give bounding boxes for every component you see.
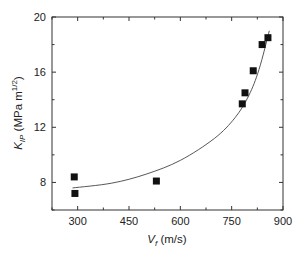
- data-point-marker: [239, 100, 246, 107]
- data-point-marker: [71, 173, 78, 180]
- fit-curve: [73, 31, 270, 188]
- data-point-marker: [250, 67, 257, 74]
- x-tick-label: 600: [171, 215, 189, 227]
- x-tick-label: 450: [120, 215, 138, 227]
- plot-border: [52, 17, 283, 210]
- y-tick-label: 12: [34, 121, 46, 133]
- data-point-marker: [259, 41, 266, 48]
- plot-frame: [52, 17, 283, 210]
- scatter-chart: 300450600750900 8121620 Vf (m/s) KIP (MP…: [0, 0, 308, 258]
- data-points: [71, 34, 272, 197]
- y-axis-label: KIP (MPa m1/2): [10, 76, 27, 150]
- data-point-marker: [264, 34, 271, 41]
- x-tick-label: 900: [274, 215, 292, 227]
- x-axis-ticks: 300450600750900: [52, 17, 292, 227]
- y-tick-label: 8: [40, 176, 46, 188]
- data-point-marker: [153, 178, 160, 185]
- y-tick-label: 16: [34, 66, 46, 78]
- x-tick-label: 300: [68, 215, 86, 227]
- y-tick-label: 20: [34, 11, 46, 23]
- data-point-marker: [242, 89, 249, 96]
- data-point-marker: [71, 190, 78, 197]
- x-tick-label: 750: [222, 215, 240, 227]
- x-axis-label: Vf (m/s): [147, 233, 186, 248]
